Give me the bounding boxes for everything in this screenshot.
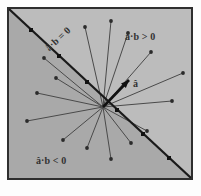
vector-head-dot (83, 25, 87, 29)
boundary-marker (29, 28, 33, 32)
unit-vector-label: â (133, 78, 138, 89)
vector-diagram-svg (9, 9, 191, 178)
boundary-marker (167, 156, 171, 160)
vector-head-dot (149, 50, 153, 54)
figure-root: â·b = 0 â·b > 0 â·b < 0 â (0, 0, 201, 196)
vector-head-dot (109, 19, 113, 23)
positive-region-label: â·b > 0 (125, 31, 155, 42)
vector-head-dot (129, 141, 133, 145)
vector-head-dot (145, 129, 149, 133)
vector-head-dot (54, 76, 58, 80)
boundary-marker (141, 132, 145, 136)
vector-head-dot (85, 146, 89, 150)
vector-head-dot (42, 56, 46, 60)
vector-head-dot (25, 119, 29, 123)
boundary-marker (85, 80, 89, 84)
negative-region-label: â·b < 0 (36, 155, 66, 166)
boundary-marker (57, 54, 61, 58)
vector-head-dot (170, 99, 174, 103)
boundary-marker (115, 108, 119, 112)
plot-frame: â·b = 0 â·b > 0 â·b < 0 â (7, 7, 193, 180)
vector-head-dot (109, 157, 113, 161)
vector-head-dot (35, 91, 39, 95)
vector-head-dot (61, 138, 65, 142)
vector-head-dot (181, 71, 185, 75)
